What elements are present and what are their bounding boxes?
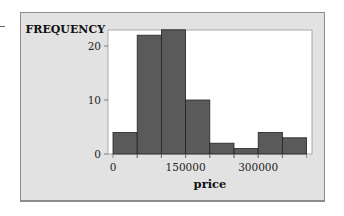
x-axis: 0150000300000 [110, 154, 307, 173]
y-axis-label: FREQUENCY [25, 23, 105, 36]
x-tick-label: 150000 [166, 161, 206, 173]
x-axis-label: price [194, 177, 227, 191]
histogram-bar [161, 30, 185, 154]
histogram-bar [186, 100, 210, 154]
histogram-bar [137, 35, 161, 154]
histogram-bar [210, 143, 234, 154]
y-tick-label: 10 [88, 94, 101, 106]
histogram-chart: 01020 0150000300000 FREQUENCY price [0, 0, 344, 216]
histogram-bar [234, 149, 258, 154]
histogram-bar [113, 132, 137, 154]
x-tick-label: 0 [110, 161, 117, 173]
histogram-bar [258, 132, 282, 154]
y-tick-label: 20 [88, 40, 101, 52]
y-tick-label: 0 [94, 148, 101, 160]
histogram-bar [282, 138, 306, 154]
x-tick-label: 300000 [238, 161, 278, 173]
y-axis: 01020 [88, 40, 108, 160]
